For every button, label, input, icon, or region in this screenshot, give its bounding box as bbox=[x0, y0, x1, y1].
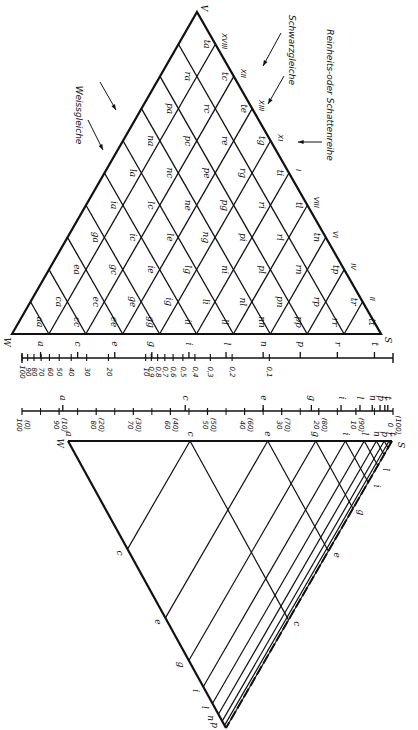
cell-label: nl bbox=[238, 297, 248, 306]
cell-label: pp bbox=[294, 316, 304, 328]
edge-numeral: XII bbox=[239, 68, 247, 78]
scale-bottom-value: 70 bbox=[126, 421, 134, 430]
cell-label: ee bbox=[109, 317, 119, 328]
scale-bottom-subvalue: (90) bbox=[357, 418, 365, 433]
scale-top-value: 80 bbox=[30, 368, 38, 377]
bottom-top-letter: e bbox=[263, 431, 273, 436]
bottom-left-letter: c bbox=[115, 551, 125, 556]
scale-top-letter: e bbox=[110, 341, 120, 346]
vertex-S-label: S bbox=[383, 337, 393, 343]
top-triangle: aacacceaeceegagcgeggiaicieigiilalclelgli… bbox=[2, 5, 393, 348]
scale-top-letter: r bbox=[333, 342, 343, 347]
cell-label: ng bbox=[201, 232, 211, 244]
cell-label: aa bbox=[35, 317, 45, 328]
scale-bottom-letter: l bbox=[355, 397, 365, 400]
cell-label: nn bbox=[257, 316, 267, 328]
cell-label: tt bbox=[367, 318, 377, 326]
scale-top-value: 40 bbox=[67, 368, 75, 377]
scale-top-value: 60 bbox=[46, 368, 54, 377]
scale-bottom-value: 100 bbox=[15, 418, 23, 432]
bottom-grid-line bbox=[203, 441, 345, 687]
scale-top-value: 0,8 bbox=[154, 366, 162, 378]
scale-bottom-value: 60 bbox=[163, 421, 171, 430]
cell-label: ri bbox=[257, 202, 267, 209]
scale-bottom-value: 0 bbox=[386, 423, 394, 428]
scale-bottom-value: 20 bbox=[312, 421, 320, 430]
bottom-grid-line bbox=[268, 441, 329, 551]
bottom-right-letter: i bbox=[372, 485, 382, 488]
scale-bottom-letter: e bbox=[259, 395, 269, 400]
bottom-left-letter: g bbox=[176, 662, 186, 668]
scale-bottom-subvalue: (40) bbox=[171, 418, 179, 433]
scale-top-value: 70 bbox=[37, 368, 45, 377]
bottom-top-letter: l bbox=[360, 433, 370, 436]
cell-label: tg bbox=[257, 136, 267, 146]
scale-top-letter: a bbox=[36, 341, 46, 346]
cell-label: pn bbox=[275, 296, 285, 308]
scale-top-letter: c bbox=[73, 341, 83, 346]
edge-numeral: XI bbox=[276, 133, 284, 141]
cell-label: rg bbox=[238, 168, 248, 178]
scale-top-letter: n bbox=[259, 341, 269, 347]
scale-bottom-subvalue: (60) bbox=[246, 418, 254, 433]
cell-label: rl bbox=[275, 234, 285, 241]
scale-top-value: 20 bbox=[105, 368, 113, 377]
cell-label: rc bbox=[202, 104, 212, 113]
cell-label: ie bbox=[146, 265, 156, 273]
scale-top-letter: p bbox=[296, 341, 306, 347]
arrow-weissgleiche-2-head bbox=[99, 144, 103, 150]
cell-label: ii bbox=[183, 319, 193, 325]
arrow-schwarzgleiche-2-head bbox=[268, 98, 273, 104]
cell-label: la bbox=[128, 169, 138, 177]
edge-numeral: IV bbox=[349, 263, 357, 271]
cell-label: tc bbox=[220, 72, 230, 81]
cell-label: ca bbox=[54, 297, 64, 307]
diagram-svg: aacacceaeceegagcgeggiaicieigiilalclelgli… bbox=[0, 0, 418, 730]
cell-label: ec bbox=[91, 297, 101, 307]
cell-label: tr bbox=[349, 298, 359, 307]
scale-bottom-subvalue: (70) bbox=[283, 418, 291, 433]
cell-label: tn bbox=[312, 233, 322, 243]
cell-label: ta bbox=[202, 40, 212, 49]
cell-label: ig bbox=[164, 297, 174, 306]
scale-bottom-letter: t bbox=[383, 396, 393, 400]
cell-label: ic bbox=[128, 233, 138, 241]
cell-label: ne bbox=[183, 200, 193, 211]
bottom-triangle-left-edge bbox=[68, 441, 226, 728]
cell-label: gg bbox=[146, 316, 156, 328]
cell-label: te bbox=[239, 104, 249, 113]
bottom-grid-line bbox=[190, 441, 288, 620]
scale-bottom-value: 90 bbox=[52, 421, 60, 430]
schwarzgleiche-label: Schwarzgleiche bbox=[287, 15, 297, 86]
cell-label: ea bbox=[72, 264, 82, 275]
cell-label: ti bbox=[275, 170, 285, 177]
scale-top-value: 0,4 bbox=[191, 366, 199, 377]
scale-top-value: 0,3 bbox=[206, 366, 214, 377]
scale-bottom-value: 50 bbox=[201, 421, 209, 430]
cell-label: li bbox=[201, 299, 211, 305]
bottom-vertex-S: S bbox=[396, 442, 406, 448]
cell-label: gc bbox=[109, 264, 119, 275]
cell-label: ge bbox=[128, 296, 138, 307]
cell-label: pg bbox=[220, 199, 230, 211]
scale-top-value: 0,5 bbox=[179, 366, 187, 378]
cell-label: nc bbox=[165, 168, 175, 179]
cell-label: pa bbox=[165, 103, 175, 114]
weissgleiche-label: Weissgleiche bbox=[74, 86, 84, 145]
cell-label: na bbox=[146, 135, 156, 146]
scale-bottom-letter: c bbox=[181, 395, 191, 400]
scale-bottom-value: 80 bbox=[89, 421, 97, 430]
bottom-grid-line bbox=[212, 441, 364, 703]
cell-label: tl bbox=[294, 202, 304, 209]
cell-label: ia bbox=[109, 201, 119, 209]
bottom-vertex-W: W bbox=[55, 438, 65, 448]
bottom-right-letter: g bbox=[356, 510, 366, 516]
cell-label: ni bbox=[220, 265, 230, 274]
cell-label: le bbox=[165, 233, 175, 241]
arrow-schwarzgleiche-1 bbox=[263, 33, 281, 66]
edge-numeral: XIII bbox=[257, 99, 265, 111]
scale-top-value: 0,7 bbox=[161, 366, 169, 378]
scale-top-value: 0,1 bbox=[265, 366, 273, 377]
cell-label: rn bbox=[294, 265, 304, 275]
bottom-grid-line bbox=[218, 441, 376, 714]
